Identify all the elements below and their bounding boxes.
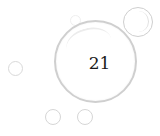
bubble-number: 21 (89, 53, 111, 73)
top-right-bubble (123, 7, 153, 37)
number-bubble[interactable]: 21 (54, 20, 137, 103)
bottom-left-bubble (45, 109, 61, 125)
bottom-right-bubble (77, 109, 93, 125)
left-bubble (8, 61, 23, 76)
bubble-highlight (128, 11, 149, 32)
